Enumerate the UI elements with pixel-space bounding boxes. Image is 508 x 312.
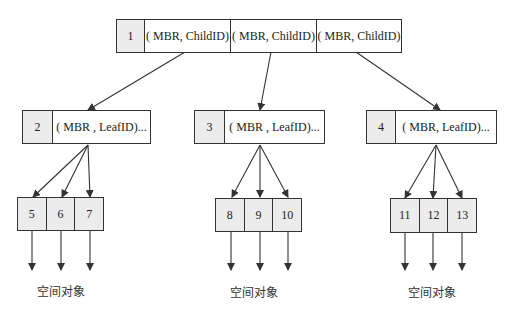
root-entry: ( MBR, ChildID): [144, 20, 230, 52]
leaf-group-2: 8 9 10: [215, 198, 302, 232]
node-id: 4: [367, 111, 395, 143]
node-id: 3: [195, 111, 224, 143]
leaf-entry: 5: [18, 198, 46, 230]
root-entry: ( MBR, ChildID): [230, 20, 316, 52]
leaf-entry: 8: [216, 199, 244, 231]
internal-node-4: 4 ( MBR, LeafID)...: [366, 110, 497, 144]
leaf-entry: 6: [46, 198, 75, 230]
leaf-group-1: 5 6 7: [17, 197, 104, 231]
root-node: 1 ( MBR, ChildID) ( MBR, ChildID) ( MBR,…: [116, 19, 402, 53]
leaf-entry: 10: [272, 199, 301, 231]
spatial-object-label: 空间对象: [408, 283, 456, 300]
leaf-entry: 12: [419, 199, 448, 232]
leaf-group-3: 11 12 13: [390, 198, 477, 233]
internal-node-2: 2 ( MBR , LeafID)...: [22, 110, 151, 144]
leaf-entry: 7: [74, 198, 103, 230]
leaf-entry: 13: [447, 199, 476, 232]
node-entry: ( MBR , LeafID)...: [224, 111, 324, 143]
root-entry: ( MBR, ChildID): [316, 20, 401, 52]
internal-node-3: 3 ( MBR , LeafID)...: [194, 110, 325, 144]
node-entry: ( MBR, LeafID)...: [395, 111, 496, 143]
node-id: 2: [23, 111, 52, 143]
spatial-object-label: 空间对象: [37, 282, 85, 299]
root-node-id: 1: [117, 20, 144, 52]
leaf-entry: 9: [244, 199, 273, 231]
leaf-entry: 11: [391, 199, 419, 232]
spatial-object-label: 空间对象: [230, 283, 278, 300]
node-entry: ( MBR , LeafID)...: [52, 111, 150, 143]
